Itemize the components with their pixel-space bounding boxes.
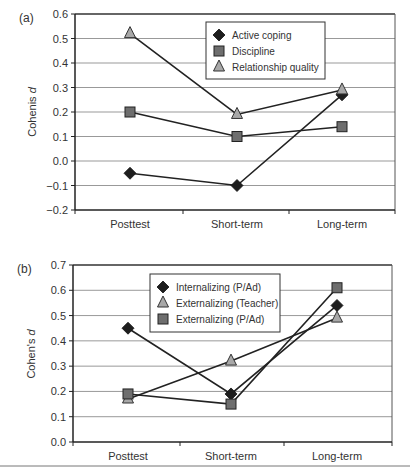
y-tick-label: 0.2 xyxy=(53,106,68,118)
figure: (a)0.60.50.40.30.20.10.0−0.1−0.2Cohenis … xyxy=(0,0,410,471)
square-marker xyxy=(332,283,342,293)
diamond-marker xyxy=(122,322,134,334)
y-tick-label: 0.4 xyxy=(51,335,66,347)
chart-panel-a: (a)0.60.50.40.30.20.10.0−0.1−0.2Cohenis … xyxy=(19,8,395,230)
legend-entry: Relationship quality xyxy=(232,62,319,73)
x-category-label: Short-term xyxy=(205,450,257,462)
triangle-marker xyxy=(125,27,136,38)
x-category-label: Posttest xyxy=(108,450,148,462)
square-marker xyxy=(158,314,168,324)
y-tick-label: 0.3 xyxy=(51,360,66,372)
legend: Active copingDisciplineRelationship qual… xyxy=(206,22,325,79)
x-category-label: Long-term xyxy=(312,450,362,462)
y-tick-label: 0.7 xyxy=(51,259,66,271)
legend: Internalizing (P/Ad)Externalizing (Teach… xyxy=(150,274,280,332)
y-axis-title: Cohen's d xyxy=(25,329,37,379)
y-tick-label: 0.1 xyxy=(51,411,66,423)
x-category-label: Short-term xyxy=(211,218,263,230)
y-tick-label: 0.0 xyxy=(51,436,66,448)
y-tick-label: 0.0 xyxy=(53,155,68,167)
legend-entry: Internalizing (P/Ad) xyxy=(176,282,261,293)
triangle-marker xyxy=(332,311,343,322)
y-axis-title: Cohenis d xyxy=(26,86,38,136)
y-tick-label: 0.4 xyxy=(53,57,68,69)
y-tick-label: 0.6 xyxy=(53,8,68,20)
y-tick-label: 0.5 xyxy=(51,310,66,322)
square-marker xyxy=(337,122,347,132)
y-tick-label: 0.3 xyxy=(53,82,68,94)
legend-entry: Discipline xyxy=(232,46,275,57)
chart-panel-b: (b)0.70.60.50.40.30.20.10.0Cohen's dPost… xyxy=(17,259,392,462)
square-marker xyxy=(125,107,135,117)
square-marker xyxy=(214,46,224,56)
triangle-marker xyxy=(337,83,348,94)
y-tick-label: 0.6 xyxy=(51,284,66,296)
diamond-marker xyxy=(124,167,136,179)
x-category-label: Long-term xyxy=(317,218,367,230)
square-marker xyxy=(226,399,236,409)
panel-label: (a) xyxy=(19,11,34,25)
y-tick-label: −0.2 xyxy=(46,204,68,216)
legend-entry: Externalizing (Teacher) xyxy=(176,298,278,309)
y-tick-label: −0.1 xyxy=(46,180,68,192)
y-tick-label: 0.1 xyxy=(53,131,68,143)
x-category-label: Posttest xyxy=(110,218,150,230)
square-marker xyxy=(123,389,133,399)
y-tick-label: 0.5 xyxy=(53,33,68,45)
y-tick-label: 0.2 xyxy=(51,385,66,397)
legend-entry: Externalizing (P/Ad) xyxy=(176,314,264,325)
panel-label: (b) xyxy=(17,262,32,276)
square-marker xyxy=(232,132,242,142)
legend-entry: Active coping xyxy=(232,30,291,41)
